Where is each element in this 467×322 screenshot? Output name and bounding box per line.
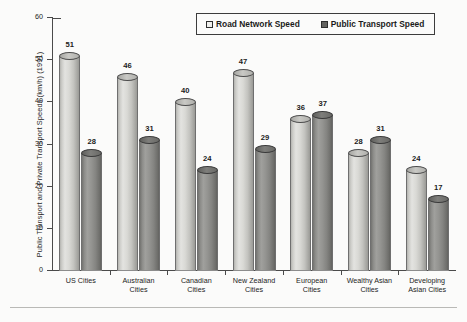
bar-public-transport-speed: 28 bbox=[81, 149, 102, 271]
bar-value-label: 28 bbox=[354, 137, 362, 146]
y-axis-tick: 0 bbox=[47, 270, 53, 271]
bar-body bbox=[255, 149, 276, 271]
category-label-line: Asian Cities bbox=[398, 285, 456, 294]
bar-value-label: 40 bbox=[181, 86, 189, 95]
x-axis-category-label: EuropeanCities bbox=[283, 276, 341, 295]
bar-public-transport-speed: 24 bbox=[197, 166, 218, 271]
category-label-line: European bbox=[283, 276, 341, 285]
legend-item-public-transport-speed: Public Transport Speed bbox=[321, 19, 425, 29]
bar-value-label: 31 bbox=[145, 124, 153, 133]
bar-group: 5128 bbox=[59, 18, 102, 271]
x-axis-separator-tick bbox=[110, 270, 111, 275]
y-axis-tick-label: 50 bbox=[35, 54, 43, 63]
y-axis-tick: 40 bbox=[47, 101, 53, 102]
category-label-line: Cities bbox=[167, 285, 225, 294]
bar-body bbox=[428, 199, 449, 271]
y-axis-tick: 60 bbox=[47, 17, 53, 18]
legend-item-road-network-speed: Road Network Speed bbox=[206, 19, 300, 29]
bar-body bbox=[312, 115, 333, 271]
bar-value-label: 24 bbox=[412, 154, 420, 163]
x-axis-category-label: New ZealandCities bbox=[225, 276, 283, 295]
bar-public-transport-speed: 17 bbox=[428, 195, 449, 271]
chart-figure: Public Transport and Private Transport S… bbox=[0, 0, 467, 322]
y-axis-tick: 10 bbox=[47, 228, 53, 229]
y-axis-tick: 30 bbox=[47, 144, 53, 145]
x-axis-category-label: CanadianCities bbox=[167, 276, 225, 295]
y-axis-tick-label: 20 bbox=[35, 181, 43, 190]
bar-road-network-speed: 24 bbox=[406, 166, 427, 271]
bar-road-network-speed: 51 bbox=[59, 52, 80, 271]
bar-road-network-speed: 47 bbox=[233, 69, 254, 271]
bar-body bbox=[370, 140, 391, 271]
bar-public-transport-speed: 31 bbox=[370, 136, 391, 271]
legend-swatch-icon-public-transport-speed bbox=[321, 21, 328, 28]
bar-body bbox=[348, 153, 369, 271]
y-axis-tick: 20 bbox=[47, 186, 53, 187]
bar-value-label: 36 bbox=[296, 103, 304, 112]
category-label-line: Cities bbox=[110, 285, 168, 294]
y-axis-line bbox=[52, 18, 53, 271]
y-axis-tick-label: 40 bbox=[35, 96, 43, 105]
category-label-line: Australian bbox=[110, 276, 168, 285]
y-axis-tick-label: 30 bbox=[35, 139, 43, 148]
bar-value-label: 28 bbox=[88, 137, 96, 146]
bar-value-label: 51 bbox=[66, 40, 74, 49]
bar-road-network-speed: 28 bbox=[348, 149, 369, 271]
bar-body bbox=[59, 56, 80, 271]
bar-top-cap bbox=[233, 69, 254, 77]
legend-label-road-network-speed: Road Network Speed bbox=[216, 19, 300, 29]
bar-top-cap bbox=[348, 149, 369, 157]
plot-area: 0102030405060 51284631402447293637283124… bbox=[52, 18, 456, 271]
bar-body bbox=[175, 102, 196, 271]
y-axis-title: Public Transport and Private Transport S… bbox=[35, 30, 44, 280]
category-label-line: New Zealand bbox=[225, 276, 283, 285]
bar-body bbox=[81, 153, 102, 271]
x-axis-category-label: DevelopingAsian Cities bbox=[398, 276, 456, 295]
category-label-line: Cities bbox=[341, 285, 399, 294]
bar-body bbox=[290, 119, 311, 271]
legend-swatch-icon-road-network-speed bbox=[206, 21, 213, 28]
bar-top-cap bbox=[197, 166, 218, 174]
y-axis-tick-label: 0 bbox=[39, 265, 43, 274]
bar-group: 4631 bbox=[117, 18, 160, 271]
x-axis-category-label: US Cities bbox=[52, 276, 110, 285]
bar-group: 2417 bbox=[406, 18, 449, 271]
category-label-line: Cities bbox=[283, 285, 341, 294]
y-axis-tick: 50 bbox=[47, 59, 53, 60]
x-axis-separator-tick bbox=[283, 270, 284, 275]
bar-road-network-speed: 46 bbox=[117, 73, 138, 271]
x-axis-category-label: Wealthy AsianCities bbox=[341, 276, 399, 295]
bar-value-label: 29 bbox=[261, 133, 269, 142]
chart-legend: Road Network Speed Public Transport Spee… bbox=[196, 13, 435, 35]
bar-body bbox=[233, 73, 254, 271]
bar-value-label: 47 bbox=[239, 57, 247, 66]
bar-top-cap bbox=[406, 166, 427, 174]
bar-value-label: 31 bbox=[376, 124, 384, 133]
x-axis-separator-tick bbox=[167, 270, 168, 275]
bar-group: 4024 bbox=[175, 18, 218, 271]
bar-public-transport-speed: 31 bbox=[139, 136, 160, 271]
bar-value-label: 17 bbox=[434, 183, 442, 192]
bar-value-label: 24 bbox=[203, 154, 211, 163]
x-axis-separator-tick bbox=[398, 270, 399, 275]
category-label-line: Canadian bbox=[167, 276, 225, 285]
legend-label-public-transport-speed: Public Transport Speed bbox=[331, 19, 425, 29]
bar-road-network-speed: 40 bbox=[175, 98, 196, 271]
x-axis-separator-tick bbox=[341, 270, 342, 275]
category-label-line: Cities bbox=[225, 285, 283, 294]
bar-value-label: 46 bbox=[123, 61, 131, 70]
bar-public-transport-speed: 29 bbox=[255, 145, 276, 271]
bar-public-transport-speed: 37 bbox=[312, 111, 333, 271]
footer-divider bbox=[10, 307, 457, 308]
y-axis-tick-label: 10 bbox=[35, 223, 43, 232]
bar-group: 4729 bbox=[233, 18, 276, 271]
bar-group: 2831 bbox=[348, 18, 391, 271]
bar-group: 3637 bbox=[290, 18, 333, 271]
bar-body bbox=[117, 77, 138, 271]
category-label-line: US Cities bbox=[52, 276, 110, 285]
bar-top-cap bbox=[255, 145, 276, 153]
bar-body bbox=[406, 170, 427, 271]
x-axis-category-label: AustralianCities bbox=[110, 276, 168, 295]
bar-body bbox=[197, 170, 218, 271]
bar-road-network-speed: 36 bbox=[290, 115, 311, 271]
